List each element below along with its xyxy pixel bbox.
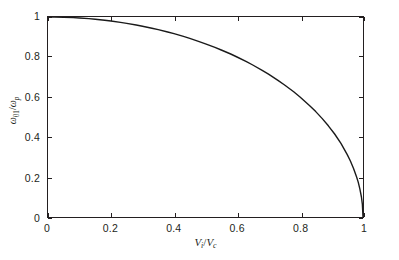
y-tick-right-1: [359, 17, 363, 18]
x-tick-bottom-04: [175, 213, 176, 217]
x-tick-bottom-08: [302, 213, 303, 217]
x-tick-bottom-0: [48, 213, 49, 217]
x-tick-label-02: 0.2: [90, 222, 130, 234]
y-tick-label-02: 0.2: [0, 172, 40, 184]
x-tick-label-06: 0.6: [217, 222, 257, 234]
data-curve-svg: [48, 17, 363, 217]
y-axis-label-numerator-var: ω: [7, 117, 18, 124]
x-axis-label: Vi/Vc: [47, 236, 364, 250]
data-curve-path: [48, 17, 363, 217]
x-tick-bottom-06: [238, 213, 239, 217]
y-axis-label-slash: /: [7, 107, 18, 110]
y-tick-right-08: [359, 56, 363, 57]
y-axis-label-numerator-sub: 01: [13, 110, 21, 117]
plot-area: [47, 16, 364, 218]
y-tick-label-08: 0.8: [0, 50, 40, 62]
x-tick-top-06: [238, 17, 239, 21]
x-tick-top-02: [111, 17, 112, 21]
y-tick-right-04: [359, 137, 363, 138]
x-tick-top-04: [175, 17, 176, 21]
y-axis-label-denominator-var: ω: [7, 100, 18, 107]
x-tick-top-08: [302, 17, 303, 21]
x-tick-bottom-1: [364, 213, 365, 217]
y-tick-left-04: [48, 137, 52, 138]
y-tick-left-1: [48, 17, 52, 18]
y-tick-left-02: [48, 178, 52, 179]
x-tick-label-0: 0: [27, 222, 67, 234]
y-tick-left-08: [48, 56, 52, 57]
y-tick-right-02: [359, 178, 363, 179]
x-tick-top-1: [364, 17, 365, 21]
y-tick-left-06: [48, 97, 52, 98]
x-tick-label-1: 1: [344, 222, 384, 234]
y-tick-label-1: 1: [0, 10, 40, 22]
x-axis-label-denominator-sub: c: [213, 241, 217, 250]
x-tick-label-04: 0.4: [154, 222, 194, 234]
y-axis-label: ω01/ωp: [7, 66, 20, 156]
y-axis-label-denominator-sub: p: [13, 97, 21, 101]
y-tick-right-06: [359, 97, 363, 98]
figure-canvas: 1 0.8 0.6 0.4 0.2 0 0 0.2 0.4 0.6 0.8 1 …: [0, 0, 399, 260]
y-tick-right-0: [359, 218, 363, 219]
x-tick-bottom-02: [111, 213, 112, 217]
y-tick-left-0: [48, 218, 52, 219]
x-tick-label-08: 0.8: [281, 222, 321, 234]
